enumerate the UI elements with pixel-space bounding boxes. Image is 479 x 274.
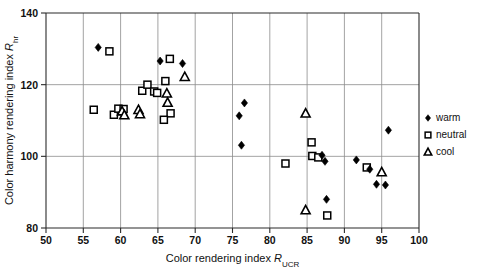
data-point-warm <box>385 126 391 134</box>
y-tick-label: 120 <box>20 79 38 91</box>
x-tick-label: 80 <box>264 234 276 246</box>
legend-marker-cool <box>424 148 431 155</box>
x-tick-label: 95 <box>376 234 388 246</box>
legend-item-cool: cool <box>424 146 454 157</box>
axis-tick-labels: 5055606570758085909510080100120140 <box>20 7 427 246</box>
legend-label-warm: warm <box>435 112 460 123</box>
chart-figure: 5055606570758085909510080100120140 warmn… <box>0 0 479 274</box>
data-point-neutral <box>160 116 167 123</box>
data-point-warm <box>241 99 247 107</box>
data-point-neutral <box>106 48 113 55</box>
data-point-neutral <box>166 55 173 62</box>
y-tick-label: 100 <box>20 150 38 162</box>
data-point-cool <box>162 89 171 97</box>
x-tick-label: 65 <box>152 234 164 246</box>
x-tick-label: 55 <box>77 234 89 246</box>
legend-marker-neutral <box>425 132 431 138</box>
data-point-neutral <box>167 110 174 117</box>
data-point-neutral <box>308 139 315 146</box>
gridlines <box>46 13 419 228</box>
data-point-cool <box>163 98 172 106</box>
legend-label-cool: cool <box>436 146 454 157</box>
scatter-plot-svg: 5055606570758085909510080100120140 warmn… <box>0 0 479 274</box>
data-point-warm <box>179 60 185 68</box>
x-tick-label: 90 <box>339 234 351 246</box>
legend-item-neutral: neutral <box>425 129 466 140</box>
legend-item-warm: warm <box>425 112 460 123</box>
x-tick-label: 75 <box>227 234 239 246</box>
data-point-warm <box>382 181 388 189</box>
data-point-neutral <box>90 106 97 113</box>
y-axis-title: Color harmony rendering index Rhr <box>3 36 20 205</box>
data-point-cool <box>180 72 189 80</box>
data-points <box>90 43 391 219</box>
data-point-warm <box>236 112 242 120</box>
data-point-neutral <box>144 81 151 88</box>
series-warm <box>95 43 391 203</box>
data-point-cool <box>301 109 310 117</box>
x-tick-label: 70 <box>189 234 201 246</box>
legend-marker-warm <box>425 115 430 122</box>
data-point-neutral <box>162 78 169 85</box>
data-point-warm <box>95 43 101 51</box>
legend-label-neutral: neutral <box>436 129 467 140</box>
data-point-neutral <box>282 160 289 167</box>
x-tick-label: 60 <box>115 234 127 246</box>
data-point-cool <box>377 167 386 175</box>
x-axis-title: Color rendering index RUCR <box>166 252 300 269</box>
series-neutral <box>90 48 370 219</box>
y-tick-label: 80 <box>26 222 38 234</box>
x-tick-label: 85 <box>301 234 313 246</box>
data-point-warm <box>373 180 379 188</box>
data-point-neutral <box>324 212 331 219</box>
x-tick-label: 50 <box>40 234 52 246</box>
data-point-neutral <box>154 89 161 96</box>
data-point-warm <box>238 141 244 149</box>
y-tick-label: 140 <box>20 7 38 19</box>
legend: warmneutralcool <box>424 112 466 157</box>
data-point-warm <box>353 156 359 164</box>
data-point-warm <box>323 195 329 203</box>
x-tick-label: 100 <box>410 234 428 246</box>
data-point-cool <box>301 205 310 213</box>
